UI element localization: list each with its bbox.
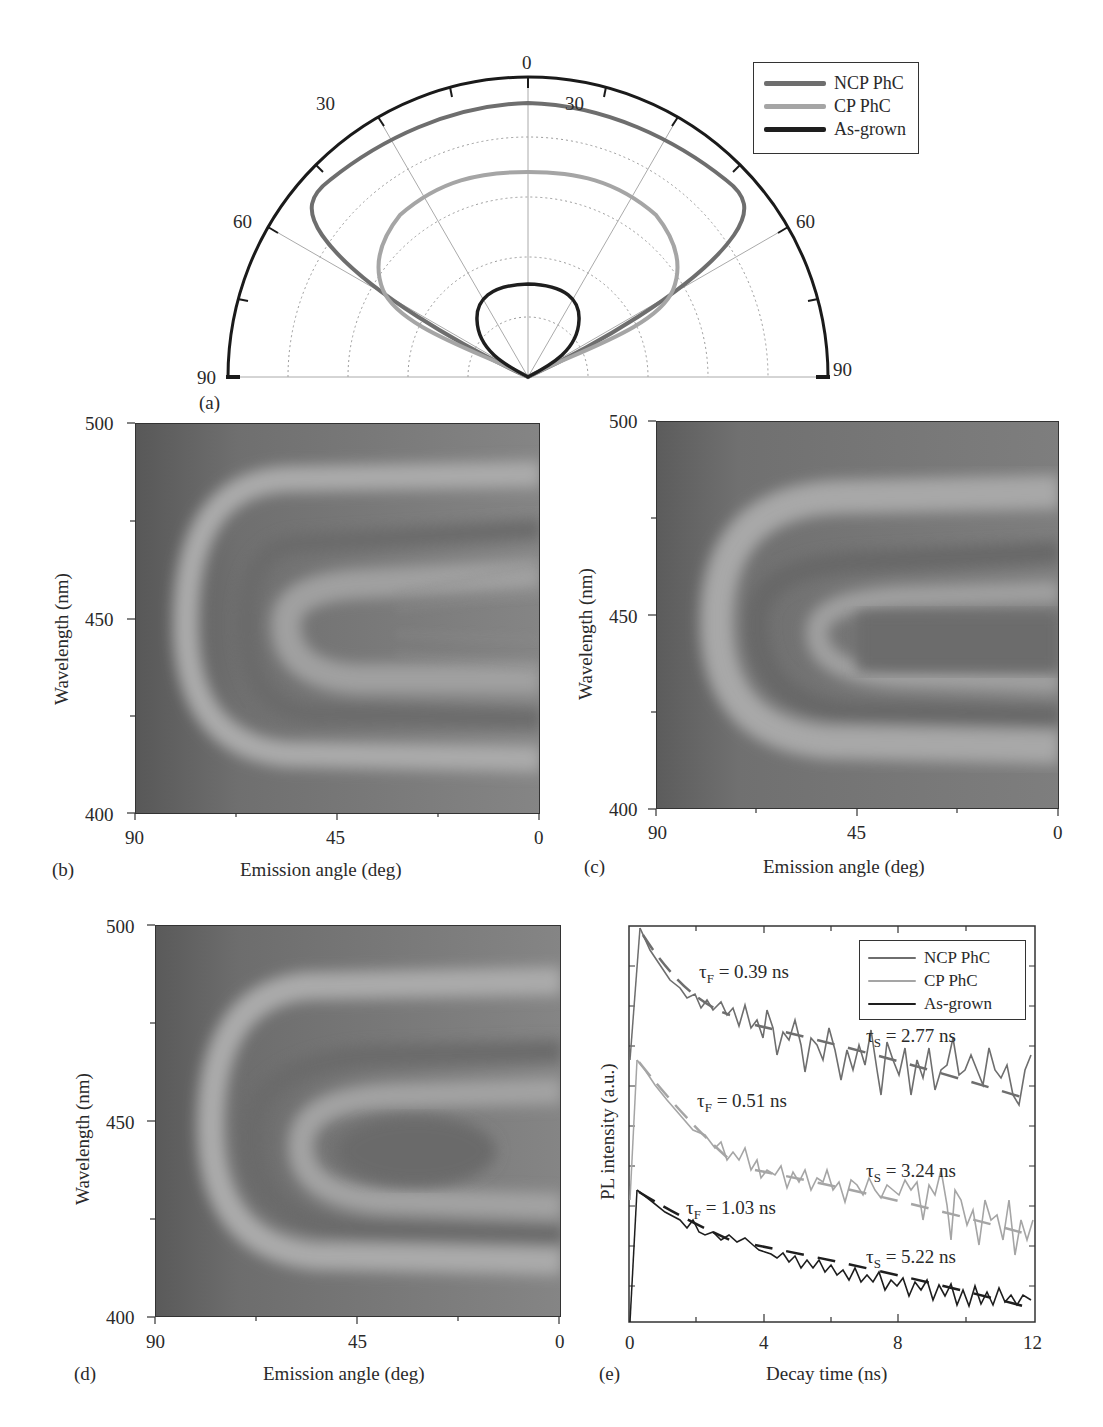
xtick-90: 90 <box>648 823 667 842</box>
ytick-400: 400 <box>609 800 638 819</box>
xtick-45: 45 <box>847 823 866 842</box>
legend-item-cp: CP PhC <box>754 95 918 118</box>
y-axis-label: Wavelength (nm) <box>73 1073 92 1205</box>
xtick-0: 0 <box>534 828 544 847</box>
legend-label: NCP PhC <box>924 948 990 968</box>
tau-f-cp-annotation: τF = 0.51 ns <box>697 1091 787 1114</box>
xtick-45: 45 <box>348 1332 367 1351</box>
heatmap-d-ticks <box>140 912 560 1332</box>
ytick-500: 500 <box>609 412 638 431</box>
ncp-swatch-icon <box>764 81 826 86</box>
polar-tick-left-30: 30 <box>316 94 335 113</box>
polar-plot <box>0 0 1103 420</box>
panel-label-b: (b) <box>52 860 74 879</box>
y-axis-label: PL intensity (a.u.) <box>598 1064 617 1201</box>
legend-label: As-grown <box>834 119 906 140</box>
legend-item-cp: CP PhC <box>860 969 1025 992</box>
ytick-500: 500 <box>106 917 135 936</box>
panel-label-d: (d) <box>74 1364 96 1383</box>
x-axis-label: Emission angle (deg) <box>763 857 924 876</box>
ytick-400: 400 <box>106 1308 135 1327</box>
y-axis-label: Wavelength (nm) <box>52 573 71 705</box>
tau-value: = 0.51 ns <box>712 1090 787 1111</box>
tau-symbol: τ <box>866 1025 874 1046</box>
asgrown-swatch-icon <box>764 127 826 132</box>
ytick-500: 500 <box>85 414 114 433</box>
panel-label-c: (c) <box>584 857 605 876</box>
tau-subscript: S <box>874 1256 881 1271</box>
xtick-90: 90 <box>125 828 144 847</box>
panel-label-e: (e) <box>599 1364 620 1383</box>
legend-item-asgrown: As-grown <box>754 118 918 141</box>
polar-tick-right-60: 60 <box>796 212 815 231</box>
ncp-swatch-icon <box>868 957 916 959</box>
tau-s-ncp-annotation: τS = 2.77 ns <box>866 1026 956 1049</box>
panel-e-legend: NCP PhC CP PhC As-grown <box>859 940 1026 1020</box>
tau-f-ncp-annotation: τF = 0.39 ns <box>699 962 789 985</box>
xtick-0: 0 <box>555 1332 565 1351</box>
tau-s-cp-annotation: τS = 3.24 ns <box>866 1161 956 1184</box>
legend-item-asgrown: As-grown <box>860 992 1025 1015</box>
tau-subscript: F <box>707 971 714 986</box>
tau-symbol: τ <box>866 1160 874 1181</box>
asgrown-swatch-icon <box>868 1003 916 1005</box>
tau-f-asgrown-annotation: τF = 1.03 ns <box>686 1198 776 1221</box>
tau-symbol: τ <box>699 961 707 982</box>
polar-tick-right-30: 30 <box>565 94 584 113</box>
xtick-8: 8 <box>893 1333 903 1352</box>
legend-label: As-grown <box>924 994 992 1014</box>
tau-subscript: S <box>874 1170 881 1185</box>
xtick-45: 45 <box>326 828 345 847</box>
polar-tick-left-90: 90 <box>197 368 216 387</box>
xtick-90: 90 <box>146 1332 165 1351</box>
tau-value: = 1.03 ns <box>701 1197 776 1218</box>
tau-subscript: F <box>694 1207 701 1222</box>
legend-item-ncp: NCP PhC <box>860 946 1025 969</box>
polar-tick-0: 0 <box>522 53 532 72</box>
legend-item-ncp: NCP PhC <box>754 72 918 95</box>
tau-s-asgrown-annotation: τS = 5.22 ns <box>866 1247 956 1270</box>
polar-tick-left-60: 60 <box>233 212 252 231</box>
tau-subscript: S <box>874 1035 881 1050</box>
tau-value: = 2.77 ns <box>881 1025 956 1046</box>
xtick-0: 0 <box>1053 823 1063 842</box>
cp-swatch-icon <box>764 104 826 109</box>
xtick-12: 12 <box>1023 1333 1042 1352</box>
tau-symbol: τ <box>697 1090 705 1111</box>
tau-subscript: F <box>705 1100 712 1115</box>
tau-value: = 0.39 ns <box>714 961 789 982</box>
panel-a-legend: NCP PhC CP PhC As-grown <box>753 62 919 154</box>
x-axis-label: Emission angle (deg) <box>263 1364 424 1383</box>
ytick-450: 450 <box>106 1113 135 1132</box>
tau-value: = 5.22 ns <box>881 1246 956 1267</box>
ytick-400: 400 <box>85 805 114 824</box>
tau-symbol: τ <box>866 1246 874 1267</box>
tau-symbol: τ <box>686 1197 694 1218</box>
legend-label: NCP PhC <box>834 73 904 94</box>
ytick-450: 450 <box>85 610 114 629</box>
cp-swatch-icon <box>868 980 916 982</box>
tau-value: = 3.24 ns <box>881 1160 956 1181</box>
heatmap-b-ticks <box>120 410 540 830</box>
heatmap-c-ticks <box>641 408 1061 828</box>
polar-tick-right-90: 90 <box>833 360 852 379</box>
legend-label: CP PhC <box>924 971 978 991</box>
ytick-450: 450 <box>609 607 638 626</box>
y-axis-label: Wavelength (nm) <box>576 568 595 700</box>
x-axis-label: Decay time (ns) <box>766 1364 887 1383</box>
xtick-0: 0 <box>625 1333 635 1352</box>
x-axis-label: Emission angle (deg) <box>240 860 401 879</box>
legend-label: CP PhC <box>834 96 891 117</box>
xtick-4: 4 <box>759 1333 769 1352</box>
